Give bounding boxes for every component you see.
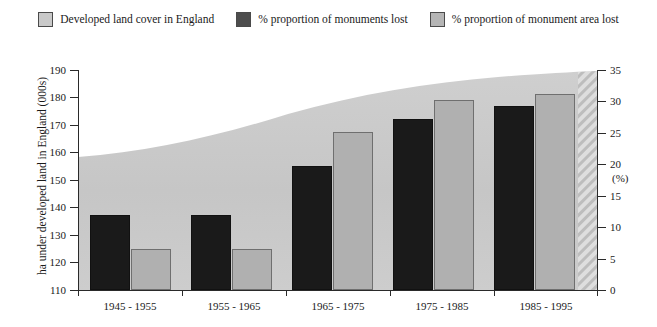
y-tick-label-150: 150	[40, 175, 66, 186]
y-tick-label-190: 190	[40, 65, 66, 76]
y-tick-label-170: 170	[40, 120, 66, 131]
y-tick-label-160: 160	[40, 147, 66, 158]
y-tick-130	[70, 235, 79, 236]
x-tick-label-1945-1955: 1945 - 1955	[80, 300, 180, 312]
right-tick-label-15: 15	[610, 191, 636, 202]
right-tick-0	[597, 290, 606, 291]
bar-series-group	[78, 70, 598, 290]
right-tick-label-25: 25	[610, 128, 636, 139]
plot-area	[78, 70, 598, 290]
bar-monument-area-lost-1955-1965[interactable]	[232, 249, 272, 290]
chart-legend: Developed land cover in England % propor…	[0, 8, 657, 30]
right-axis-title: (%)	[612, 172, 629, 184]
x-tick-label-1955-1965: 1955 - 1965	[184, 300, 284, 312]
x-axis-line	[78, 290, 599, 291]
legend-item-developed-land: Developed land cover in England	[38, 12, 214, 27]
legend-label-monuments-lost: % proportion of monuments lost	[258, 13, 408, 26]
x-tick-label-1975-1985: 1975 - 1985	[392, 300, 492, 312]
right-tick-10	[597, 227, 606, 228]
right-tick-label-10: 10	[610, 222, 636, 233]
bar-monuments-lost-1965-1975[interactable]	[292, 166, 332, 290]
legend-label-monument-area-lost: % proportion of monument area lost	[452, 13, 619, 26]
x-tick-3	[390, 290, 391, 296]
y-tick-label-180: 180	[40, 92, 66, 103]
y-tick-150	[70, 180, 79, 181]
bar-monument-area-lost-1975-1985[interactable]	[434, 100, 474, 290]
area-swatch-icon	[38, 12, 53, 27]
legend-item-monuments-lost: % proportion of monuments lost	[236, 12, 408, 27]
bar-monuments-lost-1985-1995[interactable]	[494, 106, 534, 290]
right-tick-15	[597, 196, 606, 197]
right-tick-5	[597, 259, 606, 260]
y-tick-170	[70, 125, 79, 126]
bar-monument-area-lost-1965-1975[interactable]	[333, 132, 373, 290]
y-tick-120	[70, 262, 79, 263]
y-tick-label-120: 120	[40, 257, 66, 268]
y-tick-label-130: 130	[40, 230, 66, 241]
right-tick-label-30: 30	[610, 96, 636, 107]
right-tick-25	[597, 133, 606, 134]
right-tick-35	[597, 70, 606, 71]
x-tick-1	[182, 290, 183, 296]
x-tick-5	[597, 290, 598, 296]
right-tick-label-20: 20	[610, 159, 636, 170]
y-tick-190	[70, 70, 79, 71]
y-tick-label-140: 140	[40, 202, 66, 213]
right-tick-label-35: 35	[610, 65, 636, 76]
legend-label-developed-land: Developed land cover in England	[60, 13, 214, 26]
right-tick-label-0: 0	[610, 285, 636, 296]
right-tick-20	[597, 164, 606, 165]
bar-monuments-lost-1955-1965[interactable]	[191, 215, 231, 290]
right-axis-line	[597, 70, 598, 291]
bar-monuments-lost-1975-1985[interactable]	[393, 119, 433, 290]
y-tick-160	[70, 152, 79, 153]
y-tick-180	[70, 97, 79, 98]
bar-monument-area-lost-1945-1955[interactable]	[131, 249, 171, 290]
x-tick-4	[494, 290, 495, 296]
x-tick-label-1965-1975: 1965 - 1975	[288, 300, 388, 312]
bar-monuments-lost-1945-1955[interactable]	[90, 215, 130, 290]
right-tick-30	[597, 101, 606, 102]
x-tick-label-1985-1995: 1985 - 1995	[496, 300, 596, 312]
dark-swatch-icon	[236, 12, 251, 27]
x-tick-2	[286, 290, 287, 296]
right-tick-label-5: 5	[610, 254, 636, 265]
light-swatch-icon	[430, 12, 445, 27]
y-tick-140	[70, 207, 79, 208]
y-tick-label-110: 110	[40, 285, 66, 296]
legend-item-monument-area-lost: % proportion of monument area lost	[430, 12, 619, 27]
bar-monument-area-lost-1985-1995[interactable]	[535, 94, 575, 290]
x-tick-0	[78, 290, 79, 296]
